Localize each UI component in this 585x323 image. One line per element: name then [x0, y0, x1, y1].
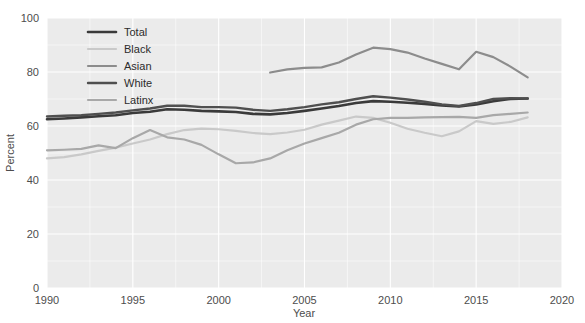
x-axis-title: Year [293, 307, 316, 319]
legend-label-white: White [124, 77, 152, 89]
legend-label-total: Total [124, 26, 147, 38]
legend-label-latinx: Latinx [124, 94, 154, 106]
line-chart: 1990199520002005201020152020 02040608010… [0, 0, 585, 323]
y-tick-label: 0 [33, 282, 39, 294]
legend-label-asian: Asian [124, 60, 152, 72]
y-tick-label: 80 [27, 66, 39, 78]
chart-figure: 1990199520002005201020152020 02040608010… [0, 0, 585, 323]
x-tick-label: 2005 [292, 294, 316, 306]
x-tick-label: 1990 [35, 294, 59, 306]
x-tick-label: 2015 [464, 294, 488, 306]
x-tick-label: 2020 [550, 294, 574, 306]
y-tick-label: 20 [27, 228, 39, 240]
y-tick-label: 40 [27, 174, 39, 186]
x-tick-label: 1995 [121, 294, 145, 306]
y-tick-label: 100 [21, 12, 39, 24]
x-tick-label: 2000 [206, 294, 230, 306]
legend-label-black: Black [124, 43, 151, 55]
y-axis-title: Percent [4, 134, 16, 172]
y-tick-label: 60 [27, 120, 39, 132]
x-tick-label: 2010 [378, 294, 402, 306]
